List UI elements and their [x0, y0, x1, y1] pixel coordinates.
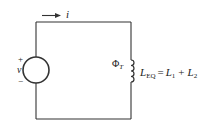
circuit-wires: [36, 22, 131, 119]
current-label: i: [66, 8, 69, 20]
voltage-source: [23, 57, 49, 83]
source-voltage-label: v: [17, 64, 22, 75]
flux-subscript: T: [119, 63, 124, 71]
flux-label: ΦT: [112, 58, 124, 71]
equivalent-inductance-equation: LEQ=L1+L2: [139, 66, 198, 80]
source-plus-sign: +: [18, 54, 23, 64]
current-arrow-icon: [42, 13, 61, 18]
source-minus-sign: −: [18, 76, 23, 86]
inductor-coil: [131, 60, 134, 82]
flux-symbol: Φ: [112, 58, 119, 69]
circuit-diagram: i + v − ΦT LEQ=L1+L2: [0, 0, 214, 126]
